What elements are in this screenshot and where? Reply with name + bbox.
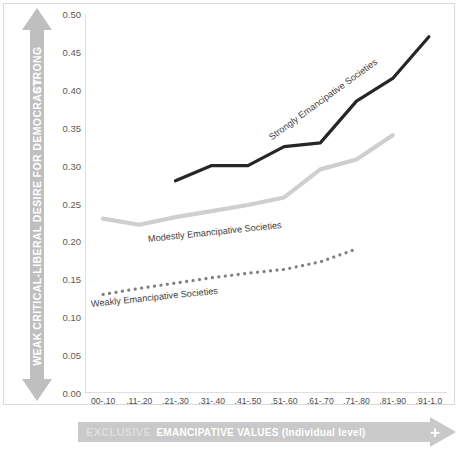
chart-figure: STRONG CRITICAL-LIBERAL DESIRE FOR DEMOC… <box>0 0 459 452</box>
x-axis-tick-5: .51-.60 <box>271 396 298 406</box>
plot-area <box>85 14 447 393</box>
y-axis-tick-0: 0.50 <box>63 9 82 20</box>
x-axis-tick-9: .91-1.0 <box>416 396 443 406</box>
y-axis-tick-8: 0.10 <box>63 312 82 323</box>
x-axis-tick-6: .61-.70 <box>307 396 334 406</box>
y-axis-tick-labels: 0.500.450.400.350.300.250.200.150.100.05… <box>48 14 81 393</box>
x-axis-tick-7: .71-.80 <box>343 396 370 406</box>
x-axis-tick-4: .41-.50 <box>235 396 262 406</box>
y-axis-tick-4: 0.30 <box>63 160 82 171</box>
y-axis-tick-9: 0.05 <box>63 350 82 361</box>
x-axis-tick-0: 00-.10 <box>91 396 115 406</box>
y-axis-tick-5: 0.25 <box>63 198 82 209</box>
x-axis-tick-3: .31-.40 <box>198 396 225 406</box>
y-axis-tick-10: 0.00 <box>63 388 82 399</box>
x-axis-tick-labels: 00-.10.11-.20.21-.30.31-.40.41-.50.51-.6… <box>85 396 447 412</box>
y-axis-tick-7: 0.15 <box>63 274 82 285</box>
y-axis-tick-6: 0.20 <box>63 236 82 247</box>
x-axis-arrow <box>78 417 456 447</box>
y-axis-tick-1: 0.45 <box>63 46 82 57</box>
x-axis-tick-1: .11-.20 <box>126 396 152 406</box>
y-axis-tick-3: 0.35 <box>63 122 82 133</box>
x-axis-tick-8: .81-.90 <box>379 396 406 406</box>
x-axis-tick-2: .21-.30 <box>162 396 189 406</box>
y-axis-tick-2: 0.40 <box>63 84 82 95</box>
